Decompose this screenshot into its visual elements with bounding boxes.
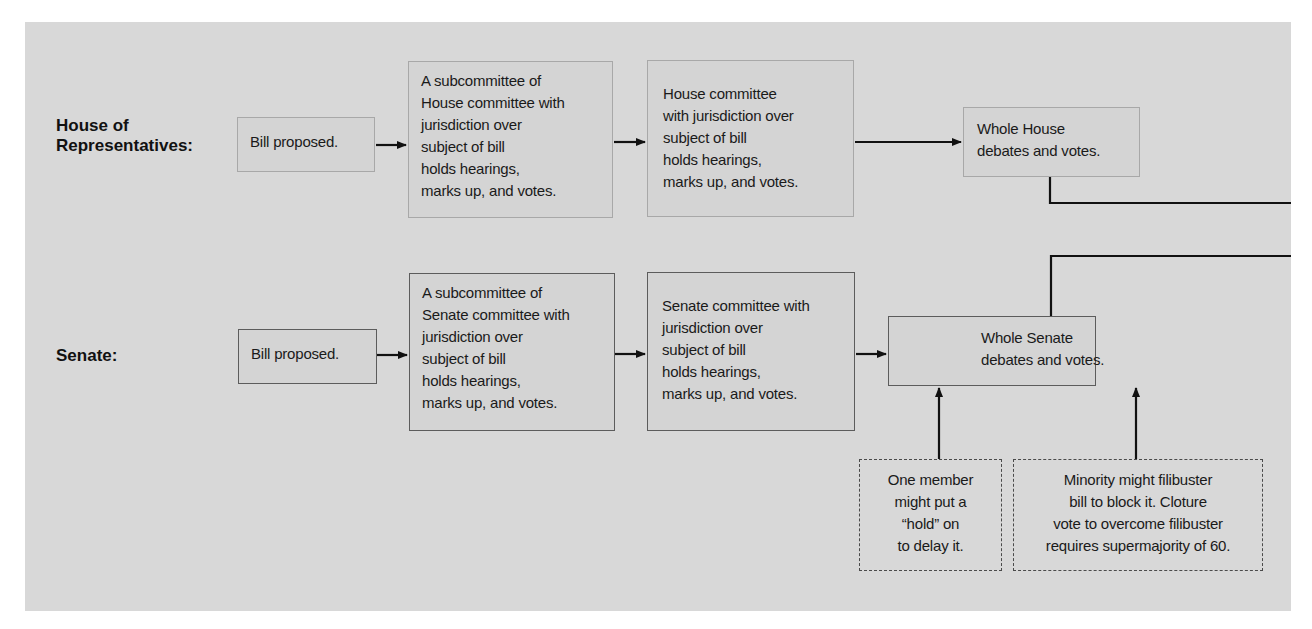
box-text-line: House committee with — [421, 92, 612, 114]
box-text-line: Bill proposed. — [250, 131, 374, 153]
whole-senate-box: Whole Senate debates and votes. — [888, 316, 1096, 386]
box-text-line: requires supermajority of 60. — [1014, 535, 1262, 557]
box-text-line: holds hearings, — [421, 158, 612, 180]
box-text-line: One member — [860, 469, 1001, 491]
house-bill-proposed-box: Bill proposed. — [237, 117, 375, 172]
box-text-line: jurisdiction over — [422, 326, 614, 348]
house-floor-connector — [1050, 177, 1291, 203]
house-label-line-1: House of — [56, 116, 193, 136]
house-row-label: House of Representatives: — [56, 116, 193, 156]
box-text-line: subject of bill — [422, 348, 614, 370]
box-text-line: debates and votes. — [977, 140, 1139, 162]
box-text-line: subject of bill — [421, 136, 612, 158]
box-text-line: Senate committee with — [662, 295, 854, 317]
box-text-line: debates and votes. — [981, 349, 1095, 371]
hold-obstacle-box: One member might put a “hold” on to dela… — [859, 459, 1002, 571]
box-text-line: holds hearings, — [663, 149, 853, 171]
senate-committee-box: Senate committee with jurisdiction over … — [647, 272, 855, 431]
box-text-line: “hold” on — [860, 513, 1001, 535]
whole-house-box: Whole House debates and votes. — [963, 107, 1140, 177]
box-text-line: marks up, and votes. — [662, 383, 854, 405]
box-text-line: bill to block it. Cloture — [1014, 491, 1262, 513]
senate-label-line-1: Senate: — [56, 346, 117, 366]
box-text-line: Minority might filibuster — [1014, 469, 1262, 491]
senate-row-label: Senate: — [56, 346, 117, 366]
box-text-line: vote to overcome filibuster — [1014, 513, 1262, 535]
box-text-line: might put a — [860, 491, 1001, 513]
box-text-line: subject of bill — [663, 127, 853, 149]
house-subcommittee-box: A subcommittee of House committee with j… — [408, 61, 613, 218]
box-text-line: Whole House — [977, 118, 1139, 140]
box-text-line: holds hearings, — [422, 370, 614, 392]
senate-subcommittee-box: A subcommittee of Senate committee with … — [409, 273, 615, 431]
box-text-line: jurisdiction over — [421, 114, 612, 136]
box-text-line: Senate committee with — [422, 304, 614, 326]
box-text-line: Bill proposed. — [251, 343, 376, 365]
senate-floor-connector — [1051, 256, 1291, 316]
house-label-line-2: Representatives: — [56, 136, 193, 156]
box-text-line: marks up, and votes. — [421, 180, 612, 202]
box-text-line: jurisdiction over — [662, 317, 854, 339]
house-committee-box: House committee with jurisdiction over s… — [647, 60, 854, 217]
box-text-line: to delay it. — [860, 535, 1001, 557]
box-text-line: House committee — [663, 83, 853, 105]
filibuster-obstacle-box: Minority might filibuster bill to block … — [1013, 459, 1263, 571]
box-text-line: with jurisdiction over — [663, 105, 853, 127]
box-text-line: A subcommittee of — [421, 70, 612, 92]
box-text-line: holds hearings, — [662, 361, 854, 383]
box-text-line: marks up, and votes. — [422, 392, 614, 414]
box-text-line: subject of bill — [662, 339, 854, 361]
box-text-line: marks up, and votes. — [663, 171, 853, 193]
box-text-line: A subcommittee of — [422, 282, 614, 304]
senate-bill-proposed-box: Bill proposed. — [238, 329, 377, 384]
box-text-line: Whole Senate — [981, 327, 1095, 349]
